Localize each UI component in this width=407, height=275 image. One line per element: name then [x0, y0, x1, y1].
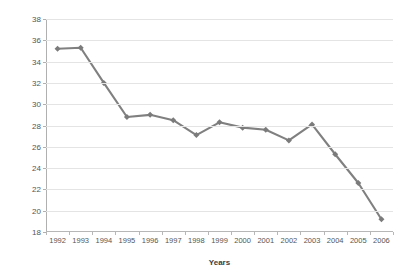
y-axis-tick	[43, 40, 46, 41]
x-axis-tick-label: 1998	[188, 236, 205, 245]
x-axis-tick-label: 2005	[350, 236, 367, 245]
x-axis-tick	[92, 232, 93, 235]
y-axis-tick-label: 34	[32, 57, 41, 66]
y-axis-title-container: % Poverty Rates (y < $R121)	[0, 0, 18, 250]
gridline	[46, 147, 393, 148]
y-axis-tick-label: 28	[32, 121, 41, 130]
gridline	[46, 40, 393, 41]
x-axis-tick	[347, 232, 348, 235]
gridline	[46, 211, 393, 212]
x-axis-tick-label: 2003	[304, 236, 321, 245]
data-point-marker	[55, 46, 61, 52]
x-axis-tick	[300, 232, 301, 235]
x-axis-tick	[231, 232, 232, 235]
x-axis-tick	[370, 232, 371, 235]
y-axis-tick	[43, 189, 46, 190]
x-axis-tick	[324, 232, 325, 235]
gridline	[46, 189, 393, 190]
gridline	[46, 62, 393, 63]
x-axis-tick	[139, 232, 140, 235]
y-axis-tick-label: 36	[32, 36, 41, 45]
gridline	[46, 126, 393, 127]
x-axis-tick-label: 2004	[327, 236, 344, 245]
y-axis-tick-label: 20	[32, 206, 41, 215]
x-axis-tick	[393, 232, 394, 235]
y-axis-tick	[43, 83, 46, 84]
y-axis-title: % Poverty Rates (y < $R121)	[0, 0, 18, 18]
x-axis-tick	[208, 232, 209, 235]
gridline	[46, 104, 393, 105]
data-point-marker	[147, 112, 153, 118]
x-axis-tick-label: 1997	[165, 236, 182, 245]
y-axis-tick	[43, 168, 46, 169]
x-axis-tick-label: 2001	[257, 236, 274, 245]
x-axis-tick-label: 1999	[211, 236, 228, 245]
y-axis-tick	[43, 211, 46, 212]
x-axis-title: Years	[46, 258, 393, 267]
x-axis-tick	[185, 232, 186, 235]
gridline	[46, 168, 393, 169]
y-axis-tick	[43, 147, 46, 148]
x-axis-tick	[46, 232, 47, 235]
x-axis-tick	[277, 232, 278, 235]
x-axis-tick-label: 1995	[119, 236, 136, 245]
x-axis-tick-label: 2006	[373, 236, 390, 245]
gridline	[46, 19, 393, 20]
gridline	[46, 83, 393, 84]
y-axis-tick-label: 30	[32, 100, 41, 109]
y-axis-tick	[43, 126, 46, 127]
y-axis-tick-label: 26	[32, 142, 41, 151]
x-axis-tick	[69, 232, 70, 235]
x-axis-tick	[115, 232, 116, 235]
y-axis-tick-label: 32	[32, 78, 41, 87]
x-axis-tick	[254, 232, 255, 235]
x-axis-tick-label: 1994	[95, 236, 112, 245]
series-line	[58, 48, 382, 219]
y-axis-tick-label: 22	[32, 185, 41, 194]
y-axis-tick	[43, 104, 46, 105]
y-axis-tick	[43, 19, 46, 20]
x-axis-tick	[162, 232, 163, 235]
x-axis-tick-label: 1996	[142, 236, 159, 245]
x-axis-tick-label: 1993	[72, 236, 89, 245]
y-axis-tick	[43, 62, 46, 63]
y-axis-tick-label: 24	[32, 164, 41, 173]
plot-area: 1820222426283032343638199219931994199519…	[46, 19, 393, 232]
x-axis-tick-label: 1992	[49, 236, 66, 245]
x-axis-tick-label: 2000	[234, 236, 251, 245]
y-axis-tick-label: 18	[32, 228, 41, 237]
y-axis-tick-label: 38	[32, 15, 41, 24]
x-axis-tick-label: 2002	[281, 236, 298, 245]
poverty-rates-line-chart: % Poverty Rates (y < $R121) 182022242628…	[0, 0, 407, 275]
